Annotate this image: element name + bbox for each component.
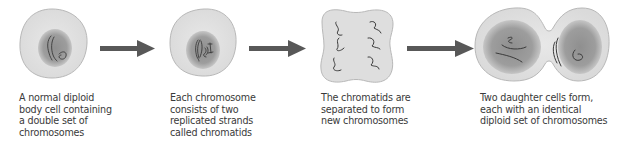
caption-line: Each chromosome <box>170 92 256 104</box>
stage-replicated-chromosomes <box>170 9 236 76</box>
caption-line: each with an identical <box>480 104 607 116</box>
caption-line: consists of two <box>170 104 256 116</box>
stage-daughter-cells <box>475 8 609 81</box>
caption-line: replicated strands <box>170 115 256 127</box>
caption-replicated-chromosomes: Each chromosome consists of two replicat… <box>170 92 256 138</box>
stage-separating-chromatids <box>321 10 393 82</box>
cell-membrane <box>321 10 393 82</box>
nucleus-left <box>483 20 541 74</box>
nucleus <box>186 31 220 69</box>
nucleus <box>38 29 72 67</box>
caption-line: diploid set of chromosomes <box>480 115 607 127</box>
caption-line: The chromatids are <box>321 92 411 104</box>
caption-line: A normal diploid <box>19 92 112 104</box>
caption-diploid-cell: A normal diploid body cell containing a … <box>19 92 112 138</box>
stage-diploid-cell <box>20 9 87 78</box>
caption-line: body cell containing <box>19 104 112 116</box>
arrow-3 <box>407 40 474 57</box>
caption-daughter-cells: Two daughter cells form, each with an id… <box>480 92 607 127</box>
caption-line: Two daughter cells form, <box>480 92 607 104</box>
caption-line: called chromatids <box>170 127 256 139</box>
caption-line: a double set of <box>19 115 112 127</box>
caption-line: separated to form <box>321 104 411 116</box>
arrow-1 <box>100 40 155 57</box>
caption-line: chromosomes <box>19 127 112 139</box>
caption-line: new chromosomes <box>321 115 411 127</box>
arrow-2 <box>249 40 306 57</box>
caption-separating-chromatids: The chromatids are separated to form new… <box>321 92 411 127</box>
nucleus-right <box>558 20 602 74</box>
